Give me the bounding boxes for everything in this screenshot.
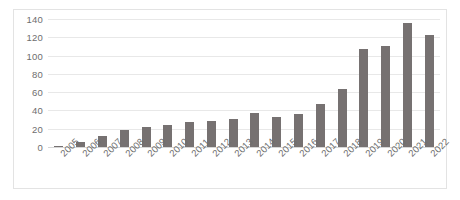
bar-slot [418, 19, 440, 147]
y-axis-tick-label: 0 [38, 142, 43, 153]
bar-slot [397, 19, 419, 147]
plot-area [48, 19, 440, 147]
x-axis-slot: 2022 [418, 149, 440, 189]
y-axis-tick-label: 100 [27, 50, 43, 61]
bar[interactable] [425, 35, 434, 147]
bar-slot [353, 19, 375, 147]
bar-slot [331, 19, 353, 147]
bar-slot [48, 19, 70, 147]
bar-slot [222, 19, 244, 147]
y-axis-tick-label: 60 [32, 87, 43, 98]
x-axis-slot: 2018 [331, 149, 353, 189]
x-axis-slot: 2021 [397, 149, 419, 189]
x-axis-slot: 2019 [353, 149, 375, 189]
y-axis-tick-label: 120 [27, 32, 43, 43]
x-axis-slot: 2005 [48, 149, 70, 189]
x-axis-slot: 2007 [92, 149, 114, 189]
y-axis-tick-label: 40 [32, 105, 43, 116]
x-axis: 2005200620072008200920102011201220132014… [48, 149, 440, 189]
bar-slot [309, 19, 331, 147]
bar-slot [266, 19, 288, 147]
x-axis-slot: 2012 [200, 149, 222, 189]
y-axis: 020406080100120140 [14, 10, 46, 188]
bar-slot [135, 19, 157, 147]
bar-slot [92, 19, 114, 147]
x-axis-slot: 2013 [222, 149, 244, 189]
y-axis-tick-label: 80 [32, 68, 43, 79]
bar-slot [70, 19, 92, 147]
x-axis-slot: 2020 [375, 149, 397, 189]
bar[interactable] [403, 23, 412, 147]
bar[interactable] [338, 89, 347, 147]
bar-slot [157, 19, 179, 147]
chart-plot-wrapper: 020406080100120140 200520062007200820092… [14, 10, 446, 188]
bar-slot [375, 19, 397, 147]
chart-container: 020406080100120140 200520062007200820092… [13, 9, 447, 189]
x-axis-slot: 2016 [288, 149, 310, 189]
x-axis-slot: 2011 [179, 149, 201, 189]
bar[interactable] [381, 46, 390, 147]
bar-slot [244, 19, 266, 147]
bar[interactable] [359, 49, 368, 147]
bar-series [48, 19, 440, 147]
bar-slot [113, 19, 135, 147]
x-axis-slot: 2014 [244, 149, 266, 189]
bar-slot [200, 19, 222, 147]
x-axis-slot: 2008 [113, 149, 135, 189]
y-axis-tick-label: 20 [32, 123, 43, 134]
x-axis-slot: 2009 [135, 149, 157, 189]
x-axis-slot: 2006 [70, 149, 92, 189]
bar-slot [288, 19, 310, 147]
y-axis-tick-label: 140 [27, 14, 43, 25]
bar-slot [179, 19, 201, 147]
x-axis-slot: 2015 [266, 149, 288, 189]
x-axis-slot: 2010 [157, 149, 179, 189]
x-axis-slot: 2017 [309, 149, 331, 189]
